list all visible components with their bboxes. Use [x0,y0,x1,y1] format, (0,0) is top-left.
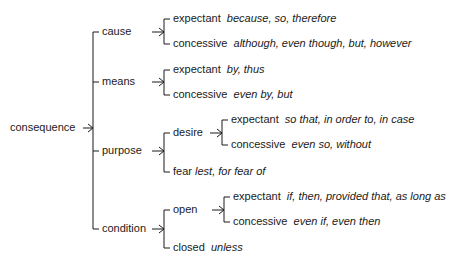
node-cause: cause [102,25,131,38]
node-cause-concessive: concessive although, even though, but, h… [173,37,412,50]
open-bracket [224,197,230,222]
arrow-icon [83,124,93,132]
node-closed: closed unless [173,241,243,254]
node-means: means [102,75,135,88]
feature-label: fear [173,165,192,177]
feature-label: expectant [231,113,279,125]
feature-label: concessive [231,138,285,150]
feature-label: concessive [173,37,227,49]
node-fear: fear lest, for fear of [173,165,265,178]
feature-examples: because, so, therefore [227,12,336,24]
purpose-bracket [164,133,170,172]
feature-examples: unless [211,241,243,253]
feature-examples: if, then, provided that, as long as [287,190,446,202]
node-desire-expectant: expectant so that, in order to, in case [231,113,414,126]
arrow-icon [210,129,222,137]
node-desire: desire [173,126,203,139]
feature-examples: so that, in order to, in case [285,113,415,125]
feature-examples: even by, but [234,88,293,100]
feature-label: expectant [173,12,221,24]
arrow-icon [212,206,224,214]
arrow-icon [152,78,164,86]
main-bracket [93,32,99,229]
desire-bracket [222,120,228,145]
arrow-icon [152,147,164,155]
node-consequence: consequence [10,121,75,134]
feature-label: concessive [173,88,227,100]
means-bracket [164,70,170,95]
feature-examples: even if, even then [294,215,381,227]
feature-label: concessive [233,215,287,227]
feature-label: expectant [233,190,281,202]
cause-bracket [164,19,170,44]
node-means-concessive: concessive even by, but [173,88,293,101]
feature-label: expectant [173,63,221,75]
feature-examples: by, thus [227,63,265,75]
arrow-icon [152,225,164,233]
feature-examples: even so, without [292,138,372,150]
arrow-icon [152,28,164,36]
node-desire-concessive: concessive even so, without [231,138,371,151]
node-means-expectant: expectant by, thus [173,63,265,76]
condition-bracket [164,210,170,248]
node-cause-expectant: expectant because, so, therefore [173,12,336,25]
node-purpose: purpose [102,144,142,157]
node-condition: condition [102,222,146,235]
node-open-expectant: expectant if, then, provided that, as lo… [233,190,446,203]
node-open: open [173,203,197,216]
feature-examples: although, even though, but, however [234,37,412,49]
feature-label: closed [173,241,205,253]
feature-examples: lest, for fear of [195,165,265,177]
node-open-concessive: concessive even if, even then [233,215,380,228]
